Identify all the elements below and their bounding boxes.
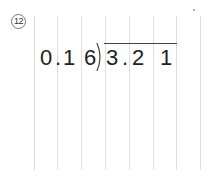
grid-line	[200, 16, 201, 170]
division-bracket-icon	[96, 43, 104, 71]
division-overline	[104, 43, 177, 44]
dividend-digit: 1	[160, 47, 172, 69]
grid-line	[153, 16, 154, 170]
grid-line	[176, 16, 177, 170]
stray-dot	[193, 9, 195, 11]
divisor-digit: 1	[63, 47, 75, 69]
grid-line	[34, 16, 35, 170]
grid-line	[105, 16, 106, 170]
problem-number-badge: 12	[11, 14, 26, 29]
divisor-decimal-point: .	[55, 47, 61, 69]
dividend-decimal-point: .	[122, 47, 128, 69]
dividend-digit: 2	[132, 47, 144, 69]
grid-line	[81, 16, 82, 170]
grid-line	[129, 16, 130, 170]
dividend-digit: 3	[106, 47, 118, 69]
grid-line	[57, 16, 58, 170]
divisor-digit: 0	[40, 47, 52, 69]
divisor-digit: 6	[84, 47, 96, 69]
